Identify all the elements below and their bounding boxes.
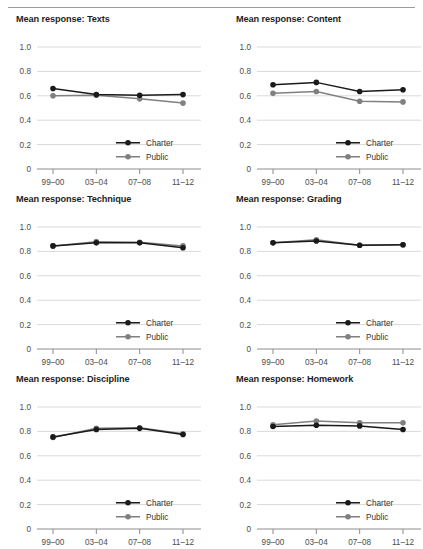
y-tick-label: 0	[246, 345, 251, 354]
chart-panel: Mean response: Homework1.00.80.60.40.209…	[228, 374, 423, 549]
data-point-charter	[357, 243, 363, 249]
x-tick-label: 99–00	[262, 178, 285, 187]
x-tick-label: 03–04	[305, 538, 328, 547]
plot-canvas: 1.00.80.60.40.2099–0003–0407–0811–12Char…	[228, 208, 423, 370]
plot-canvas: 1.00.80.60.40.2099–0003–0407–0811–12Char…	[8, 28, 206, 190]
data-point-charter	[314, 238, 320, 244]
x-tick-label: 07–08	[348, 358, 371, 367]
y-tick-label: 0.8	[20, 67, 32, 76]
legend-swatch-marker	[125, 154, 131, 160]
x-tick-label: 99–00	[42, 538, 65, 547]
x-tick-label: 03–04	[305, 358, 328, 367]
y-tick-label: 0.6	[20, 452, 32, 461]
y-tick-label: 0.2	[20, 321, 32, 330]
plot-area: 1.00.80.60.40.2099–0003–0407–0811–12Char…	[8, 208, 206, 370]
data-point-charter	[357, 89, 363, 95]
x-tick-label: 99–00	[42, 178, 65, 187]
series-line-charter	[273, 241, 403, 245]
data-point-public	[270, 91, 276, 97]
legend-swatch-marker	[125, 320, 131, 326]
legend-swatch-marker	[345, 500, 351, 506]
data-point-charter	[137, 426, 143, 432]
y-tick-label: 0	[246, 165, 251, 174]
legend-label: Charter	[366, 319, 394, 328]
data-point-charter	[137, 240, 143, 246]
panel-title: Mean response: Technique	[16, 194, 131, 204]
y-tick-label: 0	[246, 525, 251, 534]
y-tick-label: 0.6	[240, 452, 252, 461]
header-divider	[8, 7, 415, 8]
data-point-public	[357, 98, 363, 104]
legend-swatch-marker	[345, 514, 351, 520]
x-tick-label: 11–12	[172, 178, 195, 187]
data-point-charter	[50, 86, 56, 92]
y-tick-label: 0.6	[20, 92, 32, 101]
y-tick-label: 0	[26, 345, 31, 354]
data-point-public	[400, 420, 406, 426]
chart-panel: Mean response: Technique1.00.80.60.40.20…	[8, 194, 206, 370]
y-tick-label: 0.2	[240, 141, 252, 150]
data-point-charter	[94, 92, 100, 98]
data-point-charter	[314, 80, 320, 86]
y-tick-label: 0.2	[20, 141, 32, 150]
data-point-charter	[50, 243, 56, 249]
y-tick-label: 0.4	[20, 116, 32, 125]
plot-area: 1.00.80.60.40.2099–0003–0407–0811–12Char…	[8, 388, 206, 549]
y-tick-label: 0.6	[240, 92, 252, 101]
y-tick-label: 0	[26, 165, 31, 174]
data-point-charter	[180, 245, 186, 251]
panel-title: Mean response: Grading	[236, 194, 342, 204]
x-tick-label: 07–08	[128, 358, 151, 367]
y-tick-label: 0.8	[240, 247, 252, 256]
y-tick-label: 1.0	[20, 223, 32, 232]
data-point-charter	[137, 92, 143, 98]
y-tick-label: 0.8	[240, 67, 252, 76]
legend-swatch-marker	[125, 500, 131, 506]
plot-area: 1.00.80.60.40.2099–0003–0407–0811–12Char…	[8, 28, 206, 190]
data-point-public	[400, 99, 406, 105]
legend-swatch-marker	[345, 140, 351, 146]
x-tick-label: 99–00	[262, 358, 285, 367]
legend-label: Public	[366, 333, 388, 342]
plot-canvas: 1.00.80.60.40.2099–0003–0407–0811–12Char…	[228, 388, 423, 549]
plot-area: 1.00.80.60.40.2099–0003–0407–0811–12Char…	[228, 208, 423, 370]
legend-swatch-marker	[345, 334, 351, 340]
legend-label: Charter	[366, 139, 394, 148]
y-tick-label: 0.4	[240, 296, 252, 305]
plot-canvas: 1.00.80.60.40.2099–0003–0407–0811–12Char…	[8, 388, 206, 549]
y-tick-label: 0.4	[240, 116, 252, 125]
data-point-charter	[94, 427, 100, 433]
y-tick-label: 1.0	[240, 43, 252, 52]
x-tick-label: 07–08	[128, 538, 151, 547]
series-line-public	[273, 421, 403, 425]
legend-label: Charter	[146, 319, 174, 328]
x-tick-label: 11–12	[392, 538, 415, 547]
y-tick-label: 0.6	[240, 272, 252, 281]
data-point-charter	[357, 423, 363, 429]
y-tick-label: 0.6	[20, 272, 32, 281]
x-tick-label: 11–12	[172, 358, 195, 367]
x-tick-label: 07–08	[348, 538, 371, 547]
legend-label: Public	[366, 513, 388, 522]
x-tick-label: 03–04	[305, 178, 328, 187]
y-tick-label: 0.2	[240, 501, 252, 510]
plot-canvas: 1.00.80.60.40.2099–0003–0407–0811–12Char…	[8, 208, 206, 370]
y-tick-label: 1.0	[240, 403, 252, 412]
x-tick-label: 03–04	[85, 178, 108, 187]
x-tick-label: 99–00	[262, 538, 285, 547]
plot-canvas: 1.00.80.60.40.2099–0003–0407–0811–12Char…	[228, 28, 423, 190]
legend-label: Public	[146, 333, 168, 342]
legend-swatch-marker	[125, 514, 131, 520]
data-point-charter	[270, 82, 276, 88]
legend-label: Public	[146, 153, 168, 162]
y-tick-label: 0.4	[20, 296, 32, 305]
x-tick-label: 11–12	[172, 538, 195, 547]
data-point-public	[314, 89, 320, 95]
data-point-charter	[400, 242, 406, 248]
data-point-charter	[94, 240, 100, 246]
series-line-charter	[53, 88, 183, 95]
legend-label: Public	[146, 513, 168, 522]
data-point-charter	[400, 427, 406, 433]
y-tick-label: 1.0	[20, 403, 32, 412]
